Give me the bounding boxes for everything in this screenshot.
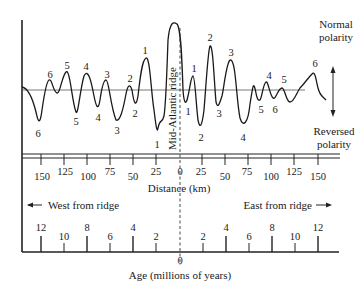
- svg-text:100: 100: [263, 171, 279, 182]
- svg-text:5: 5: [281, 74, 286, 85]
- arrow-up-icon: [331, 66, 336, 73]
- svg-text:6: 6: [246, 231, 251, 242]
- svg-text:6: 6: [312, 58, 317, 69]
- arrow-left-icon: [27, 203, 33, 208]
- svg-text:8: 8: [84, 222, 89, 233]
- svg-text:1: 1: [154, 139, 159, 150]
- east-peak-labels: 1 2 3 4 5 6: [191, 32, 317, 85]
- svg-text:2: 2: [200, 231, 205, 242]
- svg-text:10: 10: [290, 231, 301, 242]
- distance-axis-title: Distance (km): [148, 182, 211, 195]
- svg-text:4: 4: [130, 222, 136, 233]
- svg-text:8: 8: [269, 222, 274, 233]
- svg-text:150: 150: [34, 171, 50, 182]
- svg-text:25: 25: [151, 166, 162, 177]
- svg-text:1: 1: [185, 106, 190, 117]
- svg-text:25: 25: [196, 166, 207, 177]
- svg-text:2: 2: [207, 32, 212, 43]
- svg-text:4: 4: [83, 61, 89, 72]
- svg-text:5: 5: [73, 116, 78, 127]
- svg-text:75: 75: [242, 166, 253, 177]
- svg-text:2: 2: [132, 108, 137, 119]
- svg-text:4: 4: [266, 70, 272, 81]
- distance-axis-tick-labels: 150 125 100 75 50 25 0 25 50 75 100 125 …: [34, 166, 326, 182]
- svg-text:6: 6: [47, 69, 52, 80]
- svg-text:150: 150: [310, 171, 326, 182]
- age-axis-title: Age (millions of years): [129, 269, 232, 282]
- svg-text:5: 5: [258, 104, 263, 115]
- svg-text:4: 4: [95, 112, 101, 123]
- svg-text:3: 3: [104, 69, 109, 80]
- svg-text:1: 1: [191, 63, 196, 74]
- svg-text:2: 2: [153, 231, 158, 242]
- svg-text:75: 75: [105, 166, 116, 177]
- svg-text:12: 12: [36, 222, 47, 233]
- svg-text:2: 2: [198, 132, 203, 143]
- svg-text:3: 3: [228, 47, 233, 58]
- svg-text:6: 6: [272, 104, 277, 115]
- age-axis-ticks: [41, 236, 318, 252]
- svg-text:50: 50: [220, 171, 231, 182]
- age-axis-east-labels: 2 4 6 8 10 12: [200, 222, 323, 242]
- svg-text:12: 12: [313, 222, 324, 233]
- svg-text:125: 125: [57, 166, 73, 177]
- reversed-polarity-label-2: polarity: [317, 138, 352, 150]
- svg-text:0: 0: [177, 166, 182, 177]
- svg-text:4: 4: [240, 132, 246, 143]
- normal-polarity-label-2: polarity: [319, 31, 354, 43]
- magnetic-anomaly-diagram: Mid-Atlantic ridge Normal polarity Rever…: [0, 0, 360, 289]
- svg-text:4: 4: [223, 222, 229, 233]
- arrow-down-icon: [331, 110, 336, 117]
- east-from-ridge-label: East from ridge: [244, 199, 313, 211]
- svg-text:10: 10: [59, 231, 70, 242]
- age-axis-west-labels: 12 10 8 6 4 2: [36, 222, 159, 242]
- svg-text:1: 1: [142, 45, 147, 56]
- svg-text:50: 50: [128, 171, 139, 182]
- svg-text:125: 125: [286, 166, 302, 177]
- ridge-label: Mid-Atlantic ridge: [166, 67, 178, 150]
- west-from-ridge-label: West from ridge: [48, 199, 119, 211]
- svg-text:3: 3: [114, 125, 119, 136]
- distance-axis-ticks: [41, 154, 318, 165]
- svg-text:6: 6: [35, 128, 40, 139]
- svg-text:6: 6: [107, 231, 112, 242]
- svg-text:5: 5: [64, 60, 69, 71]
- arrow-right-icon: [326, 203, 332, 208]
- age-axis-zero-label: 0: [177, 255, 182, 266]
- west-trough-labels: 6 5 4 3 2 1: [35, 108, 159, 150]
- reversed-polarity-label-1: Reversed: [314, 125, 355, 137]
- normal-polarity-label-1: Normal: [319, 18, 353, 30]
- svg-text:3: 3: [216, 108, 221, 119]
- svg-text:2: 2: [127, 73, 132, 84]
- svg-text:100: 100: [80, 171, 96, 182]
